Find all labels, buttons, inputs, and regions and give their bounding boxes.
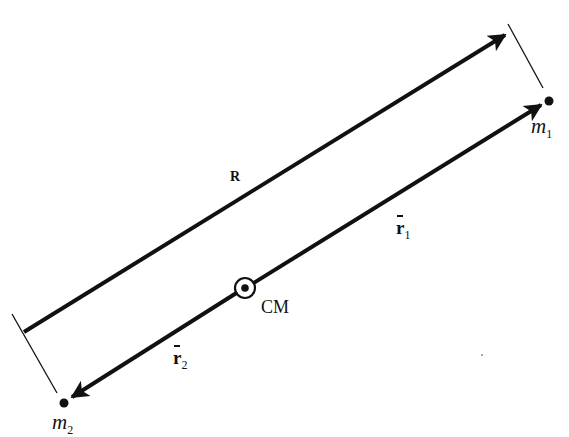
label-cm: CM: [261, 298, 289, 316]
label-r2: r2: [173, 348, 187, 367]
vector-r2: [72, 292, 238, 397]
label-m1: m1: [531, 116, 552, 137]
label-R: R: [230, 170, 240, 184]
vector-r1: [252, 105, 541, 284]
center-of-mass-icon: [235, 278, 255, 298]
label-m1-base: m: [531, 114, 546, 138]
mass-m1-dot: [545, 97, 554, 106]
label-cm-text: CM: [261, 297, 289, 317]
label-m2-sub: 2: [67, 423, 73, 437]
tick-line-m1: [508, 24, 543, 88]
label-m2-base: m: [52, 410, 67, 434]
mass-m2-dot: [60, 399, 69, 408]
label-r2-sub: 2: [181, 358, 187, 372]
vector-R: [24, 35, 505, 332]
two-body-diagram: [0, 0, 569, 437]
label-m1-sub: 1: [546, 127, 552, 141]
label-m2: m2: [52, 412, 73, 433]
speck: [481, 354, 483, 356]
label-r1: r1: [396, 218, 410, 237]
label-r1-sub: 1: [404, 228, 410, 242]
label-R-text: R: [230, 169, 240, 184]
